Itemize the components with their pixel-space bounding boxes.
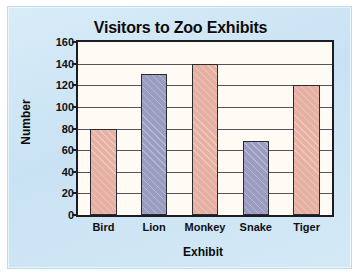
bar-bird [90,129,116,216]
bar-snake [243,141,269,215]
bar-lion [141,74,167,215]
y-axis-tick-label: 40 [40,167,74,178]
plot-inner [78,42,332,215]
y-axis-title: Number [19,82,33,162]
plot-area [76,40,334,217]
y-axis-tick-labels: 020406080100120140160 [36,40,74,217]
x-axis-tick-label: Tiger [281,220,332,234]
x-axis-title: Exhibit [63,245,343,259]
y-axis-tick-label: 140 [40,59,74,70]
y-axis-tick-label: 20 [40,188,74,199]
x-axis-tick-label: Monkey [180,220,231,234]
x-axis-tick-labels: BirdLionMonkeySnakeTiger [76,220,334,238]
bar-monkey [192,64,218,215]
bar-tiger [293,85,319,215]
x-axis-tick-label: Bird [78,220,129,234]
x-axis-tick-label: Lion [129,220,180,234]
y-axis-tick-label: 0 [40,210,74,221]
chart-card: Visitors to Zoo Exhibits Number 02040608… [7,6,352,269]
chart-title: Visitors to Zoo Exhibits [8,19,353,37]
y-axis-tick-label: 160 [40,37,74,48]
y-axis-tick-label: 80 [40,124,74,135]
x-axis-tick-label: Snake [230,220,281,234]
y-axis-tick-label: 120 [40,80,74,91]
y-axis-tick-label: 100 [40,102,74,113]
y-axis-tick-label: 60 [40,145,74,156]
